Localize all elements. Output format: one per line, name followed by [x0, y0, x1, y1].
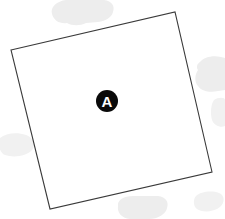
diagram-svg: A [0, 0, 225, 219]
blob-bottom-shape [118, 196, 168, 219]
marker-label: A [102, 93, 113, 110]
diagram-canvas: A [0, 0, 225, 219]
region-a-marker[interactable]: A [96, 90, 118, 112]
